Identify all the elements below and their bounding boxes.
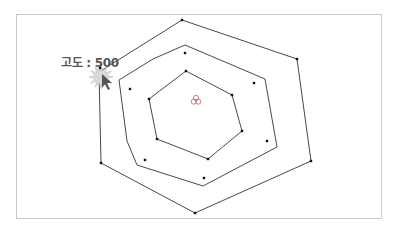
vertex-point[interactable] xyxy=(207,158,209,160)
sample-point[interactable] xyxy=(184,52,186,54)
center-marker-icon xyxy=(191,95,201,104)
vertex-point[interactable] xyxy=(100,162,102,164)
sample-point[interactable] xyxy=(253,82,255,84)
vertex-point[interactable] xyxy=(310,160,312,162)
contour-inner[interactable] xyxy=(149,71,242,159)
sample-point[interactable] xyxy=(129,88,131,90)
contour-middle[interactable] xyxy=(119,45,277,186)
contour-outer[interactable] xyxy=(99,20,311,213)
contour-lines xyxy=(99,20,311,213)
vertex-point[interactable] xyxy=(148,98,150,100)
altitude-tooltip: 고도 : 500 xyxy=(61,53,119,70)
sample-point[interactable] xyxy=(144,159,146,161)
vertex-point[interactable] xyxy=(185,70,187,72)
sample-point[interactable] xyxy=(266,140,268,142)
sample-point[interactable] xyxy=(203,177,205,179)
vertex-point[interactable] xyxy=(156,138,158,140)
contour-canvas[interactable] xyxy=(0,0,393,227)
vertex-point[interactable] xyxy=(296,58,298,60)
vertex-point[interactable] xyxy=(241,130,243,132)
vertex-point[interactable] xyxy=(194,212,196,214)
vertex-point[interactable] xyxy=(231,94,233,96)
vertex-point[interactable] xyxy=(181,19,183,21)
